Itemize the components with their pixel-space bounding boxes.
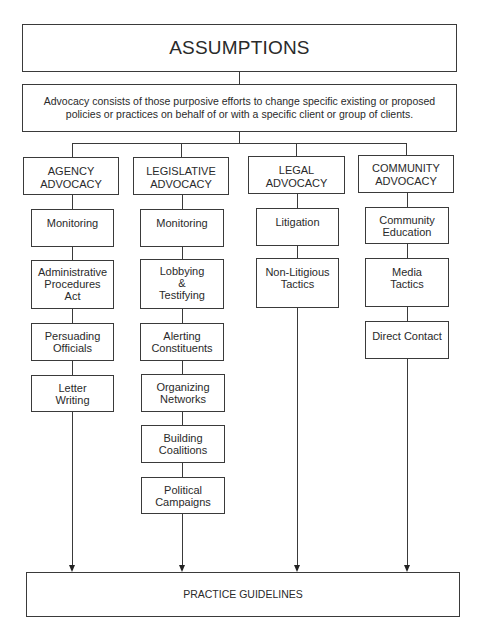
- agency-monitoring-box: Monitoring: [31, 209, 114, 247]
- item-text: Letter: [32, 382, 113, 394]
- item-text: Tactics: [257, 278, 338, 290]
- arrow-down-icon: [404, 565, 410, 572]
- header-line: ADVOCACY: [24, 178, 118, 191]
- legal-advocacy-header: LEGAL ADVOCACY: [248, 156, 345, 194]
- header-line: AGENCY: [24, 165, 118, 178]
- practice-guidelines-box: PRACTICE GUIDELINES: [26, 572, 460, 617]
- item-text: Act: [32, 290, 113, 302]
- alerting-constituents-box: Alerting Constituents: [140, 323, 224, 361]
- administrative-procedures-act-box: Administrative Procedures Act: [31, 260, 114, 309]
- branch-drop-legislative: [181, 143, 182, 157]
- item-text: Education: [366, 226, 448, 238]
- item-text: Lobbying: [141, 265, 223, 277]
- item-text: Testifying: [141, 289, 223, 301]
- community-advocacy-header: COMMUNITY ADVOCACY: [358, 155, 454, 193]
- header-line: ADVOCACY: [359, 175, 453, 188]
- definition-line-2: policies or practices on behalf of or wi…: [23, 108, 456, 121]
- branch-drop-legal: [296, 143, 297, 157]
- agency-advocacy-header: AGENCY ADVOCACY: [23, 157, 119, 195]
- connector-title-definition: [239, 72, 240, 84]
- definition-box: Advocacy consists of those purposive eff…: [22, 84, 457, 132]
- political-campaigns-box: Political Campaigns: [141, 477, 225, 514]
- branch-drop-agency: [72, 143, 73, 157]
- item-text: Procedures: [32, 278, 113, 290]
- item-text: Coalitions: [142, 444, 224, 456]
- media-tactics-box: Media Tactics: [365, 258, 449, 307]
- litigation-box: Litigation: [256, 208, 339, 246]
- item-text: Tactics: [366, 278, 448, 290]
- header-line: COMMUNITY: [359, 162, 453, 175]
- arrow-down-icon: [179, 565, 185, 572]
- item-text: Community: [366, 214, 448, 226]
- item-text: Alerting: [141, 330, 223, 342]
- organizing-networks-box: Organizing Networks: [141, 374, 225, 412]
- item-text: Direct Contact: [366, 330, 448, 342]
- branch-horizontal: [72, 143, 407, 144]
- definition-line-1: Advocacy consists of those purposive eff…: [23, 95, 456, 108]
- item-text: Litigation: [257, 216, 338, 228]
- header-line: ADVOCACY: [134, 178, 228, 191]
- item-text: Campaigns: [142, 496, 224, 508]
- item-text: &: [141, 277, 223, 289]
- header-line: LEGAL: [249, 164, 344, 177]
- community-education-box: Community Education: [365, 207, 449, 244]
- community-spine: [407, 193, 408, 566]
- item-text: Monitoring: [141, 217, 223, 229]
- item-text: Political: [142, 484, 224, 496]
- building-coalitions-box: Building Coalitions: [141, 425, 225, 463]
- item-text: Writing: [32, 394, 113, 406]
- item-text: Networks: [142, 393, 224, 405]
- item-text: Administrative: [32, 266, 113, 278]
- item-text: Non-Litigious: [257, 266, 338, 278]
- item-text: Officials: [32, 342, 113, 354]
- non-litigious-tactics-box: Non-Litigious Tactics: [256, 258, 339, 308]
- arrow-down-icon: [69, 565, 75, 572]
- lobbying-testifying-box: Lobbying & Testifying: [140, 259, 224, 309]
- assumptions-box: ASSUMPTIONS: [22, 24, 457, 72]
- header-line: LEGISLATIVE: [134, 165, 228, 178]
- persuading-officials-box: Persuading Officials: [31, 323, 114, 361]
- item-text: Media: [366, 266, 448, 278]
- assumptions-title: ASSUMPTIONS: [23, 37, 456, 59]
- item-text: Persuading: [32, 330, 113, 342]
- item-text: Organizing: [142, 381, 224, 393]
- item-text: Monitoring: [32, 217, 113, 229]
- letter-writing-box: Letter Writing: [31, 375, 114, 412]
- connector-definition-branch: [239, 132, 240, 143]
- legal-spine: [297, 194, 298, 566]
- arrow-down-icon: [294, 565, 300, 572]
- item-text: Constituents: [141, 342, 223, 354]
- legislative-monitoring-box: Monitoring: [140, 209, 224, 247]
- legislative-advocacy-header: LEGISLATIVE ADVOCACY: [133, 157, 229, 195]
- header-line: ADVOCACY: [249, 177, 344, 190]
- direct-contact-box: Direct Contact: [365, 321, 449, 359]
- practice-guidelines-label: PRACTICE GUIDELINES: [27, 588, 459, 600]
- item-text: Building: [142, 432, 224, 444]
